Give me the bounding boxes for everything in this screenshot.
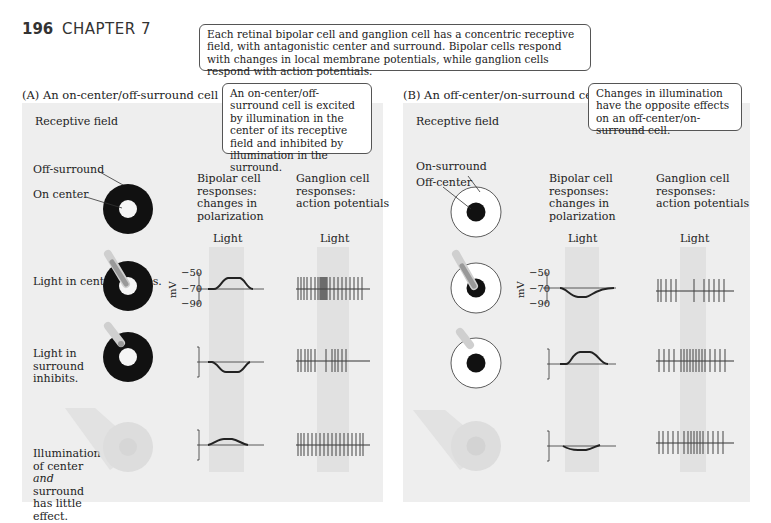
bipolar-trace-b-hyperpolarize (543, 273, 616, 303)
svg-text:−90: −90 (529, 298, 550, 309)
spike-train-b-surround (656, 346, 736, 376)
bipolar-trace-b-small (547, 431, 616, 461)
spike-train-b-center (656, 276, 736, 306)
svg-text:−70: −70 (529, 283, 550, 294)
bipolar-trace-b-depolarize (547, 349, 616, 379)
svg-text:mV: mV (515, 281, 526, 298)
center-stimulus-b-icon (451, 254, 501, 313)
surround-stimulus-b-icon (451, 332, 501, 388)
diffuse-stimulus-b-icon (413, 410, 501, 471)
spike-train-b-diffuse (656, 428, 736, 458)
receptive-field-b-icon (443, 176, 501, 237)
svg-text:−50: −50 (529, 267, 550, 278)
